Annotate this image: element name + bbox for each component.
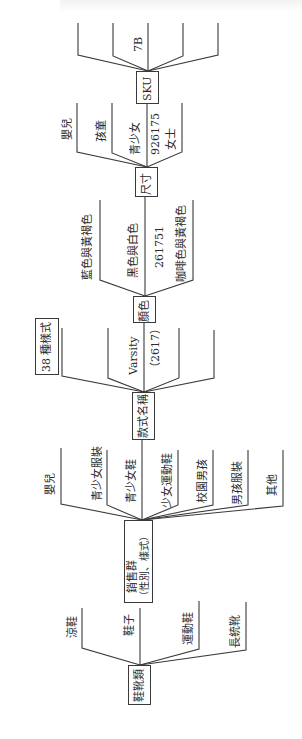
label-other: 其他 [267,474,279,496]
node-color-label: 顏色 [139,300,151,322]
label-shoes: 鞋子 [124,614,136,636]
label-varsity-code: （2617） [150,323,162,373]
node-38-styles: 38 種樣式 [35,318,59,375]
label-girl-sneakers: 少女運動鞋 [162,453,174,508]
label-boy-apparel: 男孩服裝 [232,461,244,505]
label-teen-girl-shoes: 青少女鞋 [126,459,138,503]
label-size-women: 女士 [166,128,178,150]
node-style-name-label: 款式名稱 [138,394,150,438]
label-campus-boy: 校園男孩 [197,459,209,503]
hierarchy-diagram: 鞋靴類 涼鞋 鞋子 運動鞋 長統靴 銷售群 （性別、樣式） 嬰兒 青少女服裝 青… [0,0,302,739]
node-size-label: 尺寸 [141,173,153,195]
label-size-child: 孩童 [96,120,108,142]
node-sku: SKU [136,71,159,104]
node-footwear-label: 鞋靴類 [134,669,146,702]
node-sales-group-sub: （性別、樣式） [139,531,151,601]
label-black-white: 黑色與白色 [128,223,140,278]
label-sku-7b: 7B [133,37,145,52]
label-color-code: 261751 [154,226,166,268]
label-size-teen-girl: 青少女 [130,122,142,155]
node-footwear: 鞋靴類 [128,665,151,705]
label-infant: 嬰兒 [45,473,57,495]
label-varsity: Varsity [128,336,140,375]
node-sales-group-label: 銷售群 [127,560,139,593]
node-color: 顏色 [133,296,156,323]
node-style-name: 款式名稱 [132,392,155,440]
label-teen-girl-apparel: 青少女服裝 [92,446,104,501]
label-blue-tan: 藍色與黃褐色 [82,214,94,280]
label-size-infant: 嬰兒 [62,118,74,140]
label-boots: 長統靴 [230,615,242,648]
node-sales-group: 銷售群 （性別、樣式） [124,520,153,603]
label-size-code: 926175 [150,113,162,155]
node-sku-label: SKU [142,76,154,101]
node-38-styles-label: 38 種樣式 [41,322,53,373]
label-brown-tan: 咖啡色與黃褐色 [176,205,188,282]
node-size: 尺寸 [135,167,158,197]
label-sneakers: 運動鞋 [183,612,195,645]
label-sandals: 涼鞋 [67,616,79,638]
